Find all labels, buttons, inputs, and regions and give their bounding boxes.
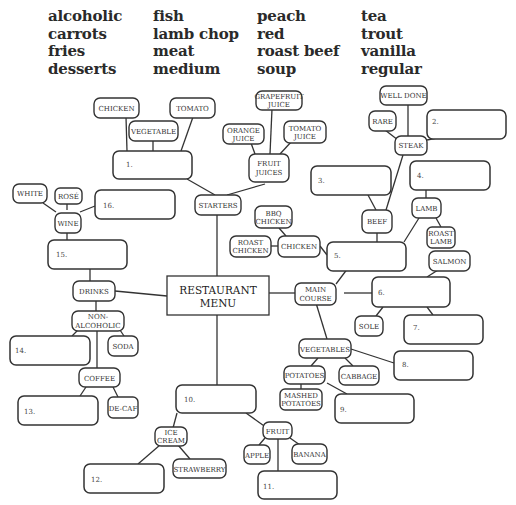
node-main-course: MAIN COURSE — [295, 283, 336, 305]
blank-box-8[interactable]: 8. — [394, 351, 473, 380]
node-decaf: DE-CAF — [108, 397, 138, 418]
svg-text:CHICKEN: CHICKEN — [255, 218, 291, 226]
blank-box-14[interactable]: 14. — [10, 336, 90, 365]
blank-box-11[interactable]: 11. — [258, 471, 337, 499]
node-rare: RARE — [369, 111, 396, 131]
restaurant-menu-root: RESTAURANT MENU — [167, 276, 269, 315]
blank-box-7[interactable]: 7. — [404, 315, 483, 344]
node-mashed-potatoes: MASHED POTATOES — [280, 389, 322, 410]
node-tomato-soup: TOMATO — [170, 98, 215, 118]
blank-box-3[interactable]: 3. — [311, 166, 391, 195]
svg-text:SODA: SODA — [112, 343, 134, 351]
svg-text:9.: 9. — [340, 406, 347, 414]
node-fruit: FRUIT — [263, 422, 292, 439]
node-orange-juice: ORANGE JUICE — [223, 124, 264, 144]
node-lamb: LAMB — [412, 198, 441, 218]
node-apple: APPLE — [244, 445, 270, 464]
node-non-alcoholic: NON- ALCOHOLIC — [72, 311, 124, 331]
svg-text:STARTERS: STARTERS — [198, 202, 237, 210]
svg-text:LAMB: LAMB — [430, 238, 452, 246]
node-starters: STARTERS — [195, 195, 241, 215]
svg-text:ROAST: ROAST — [428, 230, 454, 238]
svg-text:POTATOES: POTATOES — [285, 372, 325, 380]
svg-text:GRAPEFRUIT: GRAPEFRUIT — [254, 93, 304, 101]
svg-text:FRUIT: FRUIT — [257, 160, 281, 168]
svg-text:FRUIT: FRUIT — [266, 428, 290, 436]
node-wine: WINE — [55, 213, 81, 233]
svg-text:CHICKEN: CHICKEN — [281, 243, 317, 251]
blank-box-10[interactable]: 10. — [176, 385, 256, 413]
svg-text:APPLE: APPLE — [244, 452, 269, 460]
svg-text:BBQ: BBQ — [265, 210, 281, 218]
svg-text:RARE: RARE — [372, 118, 393, 126]
root-label-line2: MENU — [200, 297, 237, 309]
svg-text:3.: 3. — [318, 177, 325, 185]
svg-text:15.: 15. — [56, 251, 67, 259]
node-rose: ROSÉ — [55, 188, 82, 204]
svg-text:CABBAGE: CABBAGE — [341, 373, 377, 381]
svg-text:JUICE: JUICE — [267, 101, 290, 109]
blank-box-2[interactable]: 2. — [427, 110, 506, 139]
svg-text:CHICKEN: CHICKEN — [232, 247, 268, 255]
svg-text:BEEF: BEEF — [367, 218, 387, 226]
node-banana: BANANA — [292, 444, 327, 464]
svg-text:SOLE: SOLE — [359, 323, 379, 331]
node-fruit-juices: FRUIT JUICES — [249, 154, 289, 182]
node-white: WHITE — [13, 184, 47, 203]
svg-text:POTATOES: POTATOES — [281, 400, 321, 408]
node-beef: BEEF — [362, 210, 392, 233]
svg-text:7.: 7. — [413, 324, 420, 332]
svg-text:JUICE: JUICE — [232, 135, 255, 143]
node-roast-chicken: ROAST CHICKEN — [230, 236, 271, 257]
svg-text:MAIN: MAIN — [305, 286, 326, 294]
svg-text:ROAST: ROAST — [238, 239, 264, 247]
svg-text:4.: 4. — [417, 172, 424, 180]
menu-mind-map: RESTAURANT MENU CHICKEN TOMATO VEGETABLE… — [0, 0, 516, 505]
svg-text:DRINKS: DRINKS — [79, 288, 109, 296]
blank-box-9[interactable]: 9. — [335, 394, 414, 423]
node-vegetables: VEGETABLES — [299, 339, 351, 358]
svg-text:WHITE: WHITE — [17, 190, 43, 198]
svg-text:12.: 12. — [91, 476, 102, 484]
svg-text:14.: 14. — [15, 347, 26, 355]
node-strawberry: STRAWBERRY — [173, 459, 226, 478]
svg-text:11.: 11. — [263, 483, 274, 491]
blank-box-1[interactable]: 1. — [113, 151, 192, 179]
blank-box-5[interactable]: 5. — [327, 242, 406, 271]
blank-box-4[interactable]: 4. — [410, 161, 490, 190]
node-vegetable-soup: VEGETABLE — [129, 121, 178, 141]
svg-text:SALMON: SALMON — [433, 258, 467, 266]
node-roast-lamb: ROAST LAMB — [427, 227, 455, 248]
blank-box-15[interactable]: 15. — [48, 240, 127, 269]
svg-text:STRAWBERRY: STRAWBERRY — [174, 466, 226, 474]
node-bbq-chicken: BBQ CHICKEN — [255, 206, 292, 228]
node-steak: STEAK — [395, 136, 427, 155]
svg-text:10.: 10. — [184, 396, 195, 404]
node-chicken-soup: CHICKEN — [94, 98, 139, 118]
node-drinks: DRINKS — [73, 281, 115, 301]
blank-box-6[interactable]: 6. — [372, 277, 450, 307]
node-sole: SOLE — [355, 316, 383, 336]
node-cabbage: CABBAGE — [339, 366, 379, 385]
svg-text:CREAM: CREAM — [157, 437, 185, 445]
svg-text:13.: 13. — [24, 408, 35, 416]
blank-box-16[interactable]: 16. — [95, 190, 175, 219]
node-salmon: SALMON — [429, 251, 470, 271]
node-chicken: CHICKEN — [278, 236, 320, 257]
svg-text:WELL DONE: WELL DONE — [380, 92, 426, 100]
blank-box-12[interactable]: 12. — [84, 464, 164, 493]
node-tomato-juice: TOMATO JUICE — [284, 121, 326, 143]
svg-text:ALCOHOLIC: ALCOHOLIC — [74, 322, 120, 330]
svg-text:5.: 5. — [334, 252, 341, 260]
svg-text:BANANA: BANANA — [293, 451, 327, 459]
svg-text:DE-CAF: DE-CAF — [109, 405, 138, 413]
node-potatoes: POTATOES — [284, 366, 325, 384]
blank-box-13[interactable]: 13. — [18, 396, 98, 425]
root-label-line1: RESTAURANT — [179, 284, 256, 296]
svg-text:JUICES: JUICES — [255, 169, 283, 177]
svg-text:ICE: ICE — [164, 429, 177, 437]
svg-text:16.: 16. — [103, 202, 114, 210]
svg-text:CHICKEN: CHICKEN — [98, 105, 134, 113]
svg-text:TOMATO: TOMATO — [176, 105, 209, 113]
svg-text:LAMB: LAMB — [415, 205, 437, 213]
